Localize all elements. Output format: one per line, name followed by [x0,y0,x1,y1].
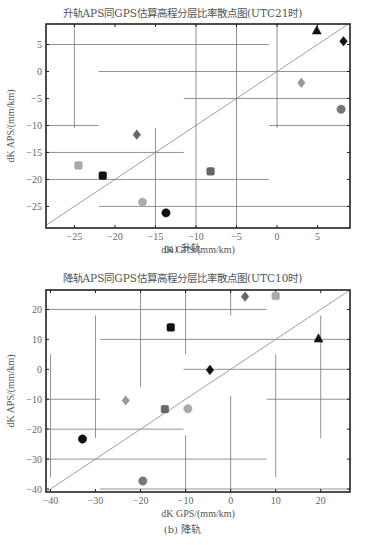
y-tick-label: −10 [26,394,42,405]
x-axis-label: dK GPS/(mm/km) [161,244,235,256]
circle-marker [184,405,192,413]
plot-frame [46,24,350,228]
square-marker [161,405,169,413]
triangle-marker [314,334,323,342]
y-tick-label: 5 [37,39,42,50]
y-tick-label: −30 [26,454,42,465]
x-tick-label: −30 [88,495,104,506]
diamond-marker [340,36,348,46]
y-tick-label: 0 [37,364,42,375]
circle-marker [78,435,86,443]
x-tick-label: −5 [231,231,242,242]
diamond-marker [298,78,306,88]
circle-marker [337,105,345,113]
reference-line [46,290,350,492]
x-axis-label: dK GPS/(mm/km) [161,508,235,520]
scatter-charts: −25−20−15−10−505−25−20−15−10−505dK GPS/(… [0,0,365,545]
circle-marker [139,477,147,485]
x-tick-label: 0 [228,495,233,506]
triangle-marker [312,26,321,34]
y-tick-label: −20 [26,174,42,185]
square-marker [272,292,280,300]
diamond-marker [206,365,214,375]
y-tick-label: 10 [32,334,42,345]
circle-marker [138,198,146,206]
square-marker [207,168,215,176]
circle-marker [162,209,170,217]
square-marker [75,162,83,170]
descending-chart: −40−30−20−1001020−40−30−20−1001020dK GPS… [5,290,350,520]
diamond-marker [133,130,141,140]
x-tick-label: −25 [67,231,83,242]
diamond-marker [241,292,249,302]
y-tick-label: −25 [26,201,42,212]
x-tick-label: −20 [133,495,149,506]
y-tick-label: 0 [37,66,42,77]
x-tick-label: 0 [275,231,280,242]
x-tick-label: 5 [315,231,320,242]
x-tick-label: 20 [316,495,326,506]
y-axis-label: dK APS/(mm/km) [5,89,17,162]
x-tick-label: −20 [107,231,123,242]
y-tick-label: −10 [26,120,42,131]
square-marker [99,172,107,180]
reference-line [46,24,348,225]
x-tick-label: −10 [188,231,204,242]
square-marker [167,324,175,332]
y-tick-label: −5 [31,93,42,104]
diamond-marker [122,396,130,406]
ascending-chart: −25−20−15−10−505−25−20−15−10−505dK GPS/(… [5,24,350,256]
y-tick-label: −15 [26,147,42,158]
x-tick-label: −15 [148,231,164,242]
x-tick-label: −40 [43,495,59,506]
x-tick-label: 10 [271,495,281,506]
y-tick-label: −40 [26,484,42,495]
y-tick-label: 20 [32,304,42,315]
y-axis-label: dK APS/(mm/km) [5,354,17,427]
y-tick-label: −20 [26,424,42,435]
x-tick-label: −10 [178,495,194,506]
